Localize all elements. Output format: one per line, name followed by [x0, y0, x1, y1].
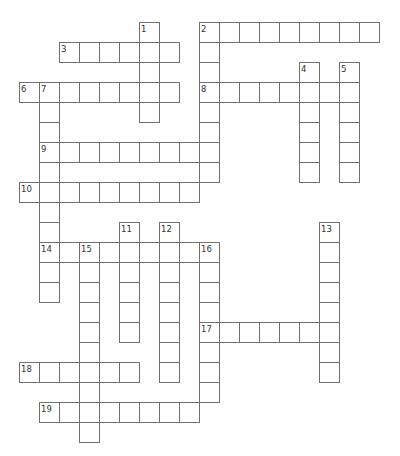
crossword-cell[interactable]: [259, 322, 280, 343]
crossword-cell[interactable]: [39, 142, 60, 163]
crossword-cell[interactable]: [339, 142, 360, 163]
crossword-cell[interactable]: [159, 182, 180, 203]
crossword-cell[interactable]: [179, 142, 200, 163]
crossword-cell[interactable]: [199, 242, 220, 263]
crossword-cell[interactable]: [299, 322, 320, 343]
crossword-cell[interactable]: [79, 342, 100, 363]
crossword-cell[interactable]: [179, 402, 200, 423]
crossword-cell[interactable]: [259, 82, 280, 103]
crossword-cell[interactable]: [199, 262, 220, 283]
crossword-cell[interactable]: [119, 402, 140, 423]
crossword-cell[interactable]: [159, 222, 180, 243]
crossword-cell[interactable]: [19, 182, 40, 203]
crossword-cell[interactable]: [319, 362, 340, 383]
crossword-cell[interactable]: [299, 142, 320, 163]
crossword-cell[interactable]: [39, 362, 60, 383]
crossword-cell[interactable]: [179, 242, 200, 263]
crossword-cell[interactable]: [319, 82, 340, 103]
crossword-cell[interactable]: [199, 162, 220, 183]
crossword-cell[interactable]: [79, 142, 100, 163]
crossword-cell[interactable]: [39, 202, 60, 223]
crossword-cell[interactable]: [199, 302, 220, 323]
crossword-cell[interactable]: [339, 22, 360, 43]
crossword-cell[interactable]: [199, 42, 220, 63]
crossword-cell[interactable]: [199, 382, 220, 403]
crossword-cell[interactable]: [99, 82, 120, 103]
crossword-cell[interactable]: [39, 262, 60, 283]
crossword-cell[interactable]: [119, 282, 140, 303]
crossword-cell[interactable]: [299, 22, 320, 43]
crossword-cell[interactable]: [79, 302, 100, 323]
crossword-cell[interactable]: [299, 102, 320, 123]
crossword-cell[interactable]: [59, 42, 80, 63]
crossword-cell[interactable]: [119, 302, 140, 323]
crossword-cell[interactable]: [339, 162, 360, 183]
crossword-cell[interactable]: [159, 302, 180, 323]
crossword-cell[interactable]: [159, 142, 180, 163]
crossword-cell[interactable]: [139, 22, 160, 43]
crossword-cell[interactable]: [339, 82, 360, 103]
crossword-cell[interactable]: [39, 182, 60, 203]
crossword-cell[interactable]: [299, 122, 320, 143]
crossword-cell[interactable]: [199, 322, 220, 343]
crossword-cell[interactable]: [319, 282, 340, 303]
crossword-cell[interactable]: [219, 322, 240, 343]
crossword-cell[interactable]: [339, 122, 360, 143]
crossword-cell[interactable]: [119, 222, 140, 243]
crossword-cell[interactable]: [239, 322, 260, 343]
crossword-cell[interactable]: [59, 402, 80, 423]
crossword-cell[interactable]: [199, 122, 220, 143]
crossword-cell[interactable]: [199, 82, 220, 103]
crossword-cell[interactable]: [79, 82, 100, 103]
crossword-cell[interactable]: [99, 362, 120, 383]
crossword-cell[interactable]: [139, 62, 160, 83]
crossword-cell[interactable]: [279, 22, 300, 43]
crossword-cell[interactable]: [299, 162, 320, 183]
crossword-cell[interactable]: [159, 362, 180, 383]
crossword-cell[interactable]: [79, 282, 100, 303]
crossword-cell[interactable]: [339, 62, 360, 83]
crossword-cell[interactable]: [319, 302, 340, 323]
crossword-cell[interactable]: [39, 82, 60, 103]
crossword-cell[interactable]: [39, 122, 60, 143]
crossword-cell[interactable]: [99, 182, 120, 203]
crossword-cell[interactable]: [99, 42, 120, 63]
crossword-cell[interactable]: [319, 222, 340, 243]
crossword-cell[interactable]: [159, 42, 180, 63]
crossword-cell[interactable]: [199, 282, 220, 303]
crossword-cell[interactable]: [179, 182, 200, 203]
crossword-cell[interactable]: [159, 262, 180, 283]
crossword-cell[interactable]: [99, 402, 120, 423]
crossword-cell[interactable]: [19, 362, 40, 383]
crossword-cell[interactable]: [159, 242, 180, 263]
crossword-cell[interactable]: [279, 322, 300, 343]
crossword-cell[interactable]: [59, 362, 80, 383]
crossword-cell[interactable]: [39, 102, 60, 123]
crossword-cell[interactable]: [139, 42, 160, 63]
crossword-cell[interactable]: [159, 322, 180, 343]
crossword-cell[interactable]: [39, 222, 60, 243]
crossword-cell[interactable]: [359, 22, 380, 43]
crossword-cell[interactable]: [99, 242, 120, 263]
crossword-cell[interactable]: [239, 82, 260, 103]
crossword-cell[interactable]: [99, 142, 120, 163]
crossword-cell[interactable]: [319, 342, 340, 363]
crossword-cell[interactable]: [79, 262, 100, 283]
crossword-cell[interactable]: [79, 422, 100, 443]
crossword-cell[interactable]: [159, 402, 180, 423]
crossword-cell[interactable]: [159, 342, 180, 363]
crossword-cell[interactable]: [219, 82, 240, 103]
crossword-cell[interactable]: [199, 362, 220, 383]
crossword-cell[interactable]: [119, 182, 140, 203]
crossword-cell[interactable]: [319, 242, 340, 263]
crossword-cell[interactable]: [59, 82, 80, 103]
crossword-cell[interactable]: [139, 242, 160, 263]
crossword-cell[interactable]: [79, 382, 100, 403]
crossword-cell[interactable]: [79, 322, 100, 343]
crossword-cell[interactable]: [119, 42, 140, 63]
crossword-cell[interactable]: [19, 82, 40, 103]
crossword-cell[interactable]: [319, 262, 340, 283]
crossword-cell[interactable]: [199, 22, 220, 43]
crossword-cell[interactable]: [199, 342, 220, 363]
crossword-cell[interactable]: [79, 182, 100, 203]
